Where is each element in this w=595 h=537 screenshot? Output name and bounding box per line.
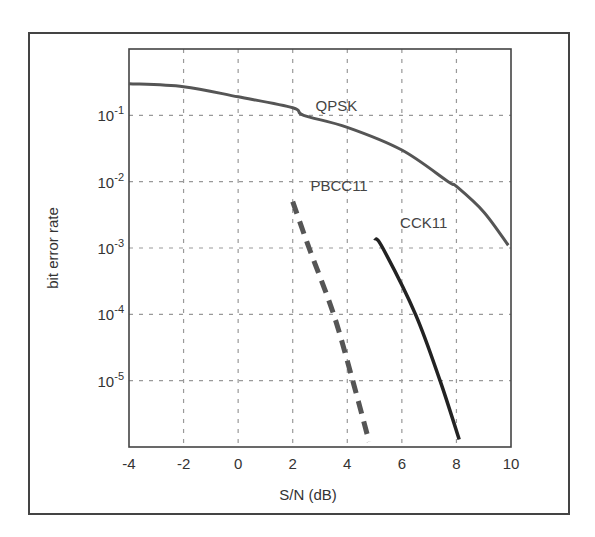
outer-frame bbox=[29, 33, 569, 514]
ber-chart: -4-20246810 10-110-210-310-410-5 S/N (dB… bbox=[0, 0, 595, 537]
y-tick-label: 10-5 bbox=[98, 370, 124, 390]
x-tick-label: 8 bbox=[452, 455, 460, 472]
x-tick-label: -4 bbox=[122, 455, 135, 472]
series-labels: QPSKPBCC11CCK11 bbox=[310, 97, 447, 231]
x-tick-label: 10 bbox=[503, 455, 520, 472]
y-tick-label: 10-2 bbox=[98, 171, 124, 191]
x-tick-labels: -4-20246810 bbox=[122, 455, 519, 472]
y-tick-label: 10-1 bbox=[98, 104, 124, 124]
series-label-qpsk: QPSK bbox=[316, 97, 358, 114]
series-label-cck11: CCK11 bbox=[400, 214, 447, 231]
x-tick-label: 4 bbox=[343, 455, 351, 472]
data-series bbox=[129, 84, 508, 442]
y-axis-label: bit error rate bbox=[44, 207, 61, 289]
y-tick-labels: 10-110-210-310-410-5 bbox=[98, 104, 124, 389]
x-tick-label: 0 bbox=[234, 455, 242, 472]
y-tick-label: 10-3 bbox=[98, 237, 124, 257]
series-line-cck11 bbox=[375, 238, 460, 439]
y-tick-label: 10-4 bbox=[98, 303, 124, 323]
x-tick-label: 2 bbox=[289, 455, 297, 472]
x-axis-label: S/N (dB) bbox=[279, 486, 337, 503]
series-line-pbcc11 bbox=[293, 202, 369, 442]
x-tick-label: -2 bbox=[177, 455, 190, 472]
series-label-pbcc11: PBCC11 bbox=[310, 177, 367, 194]
x-tick-label: 6 bbox=[398, 455, 406, 472]
